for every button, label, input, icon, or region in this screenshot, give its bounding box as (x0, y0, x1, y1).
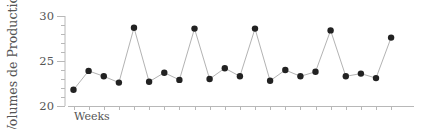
data-point-marker (343, 73, 349, 79)
data-point-marker (267, 78, 273, 84)
data-point-marker (252, 25, 258, 31)
line-chart: Volumes de Production 20 25 30 Weeks (0, 0, 436, 129)
data-point-marker (358, 70, 364, 76)
data-point-marker (297, 73, 303, 79)
y-axis-label: Volumes de Production (5, 0, 20, 129)
plot-area (0, 0, 436, 129)
data-point-marker (191, 25, 197, 31)
data-point-marker (222, 65, 228, 71)
x-axis-label: Weeks (74, 110, 110, 123)
data-point-marker (176, 77, 182, 83)
data-point-marker (312, 69, 318, 75)
data-point-marker (70, 87, 76, 93)
data-point-marker (237, 73, 243, 79)
y-tick-label-30: 30 (30, 9, 54, 23)
data-point-marker (373, 75, 379, 81)
data-point-marker (206, 76, 212, 82)
data-point-marker (85, 68, 91, 74)
data-point-marker (146, 79, 152, 85)
data-point-marker (327, 27, 333, 33)
data-point-marker (282, 67, 288, 73)
y-tick-label-25: 25 (30, 54, 54, 68)
data-point-marker (101, 73, 107, 79)
data-point-marker (116, 79, 122, 85)
y-tick-label-20: 20 (30, 99, 54, 113)
data-point-marker (388, 34, 394, 40)
data-point-marker (161, 70, 167, 76)
data-point-marker (131, 25, 137, 31)
